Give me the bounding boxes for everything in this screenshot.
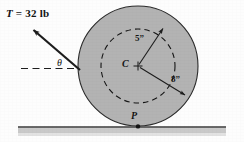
ground-band [18, 128, 226, 134]
inner-radius-label: 5” [135, 34, 144, 43]
contact-point-marker [136, 124, 140, 128]
free-body-diagram [0, 0, 244, 142]
ground-band-shadow [18, 133, 226, 136]
tension-symbol: T [6, 7, 13, 19]
outer-radius-label: 8” [171, 75, 180, 84]
angle-label: θ [57, 58, 62, 68]
tension-label: T = 32 lb [6, 8, 49, 19]
tension-value: 32 lb [25, 7, 49, 19]
contact-point-label: P [131, 111, 137, 121]
center-label: C [122, 59, 129, 69]
tension-equals: = [13, 7, 25, 19]
